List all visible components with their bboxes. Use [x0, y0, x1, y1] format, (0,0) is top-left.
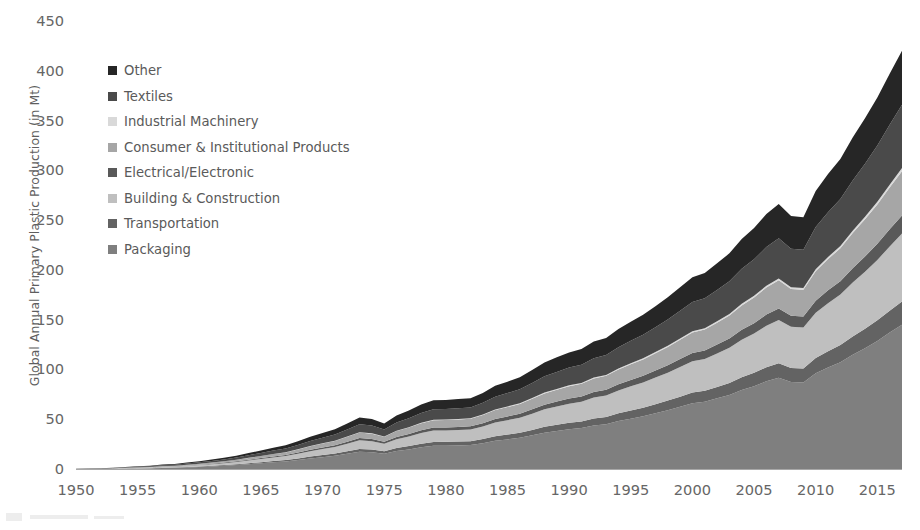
x-axis-tick-1995: 1995 [612, 483, 649, 498]
legend-item-electrical-electronic[interactable]: Electrical/Electronic [108, 160, 448, 186]
legend-swatch-icon [108, 245, 117, 254]
legend-swatch-icon [108, 194, 117, 203]
legend-item-transportation[interactable]: Transportation [108, 211, 448, 237]
legend-item-building-construction[interactable]: Building & Construction [108, 186, 448, 212]
legend-swatch-icon [108, 92, 117, 101]
legend-item-industrial-machinery[interactable]: Industrial Machinery [108, 109, 448, 135]
legend-item-label: Textiles [124, 90, 173, 103]
chart-legend: OtherTextilesIndustrial MachineryConsume… [108, 58, 448, 262]
legend-swatch-icon [108, 219, 117, 228]
x-axis-tick-1955: 1955 [119, 483, 156, 498]
legend-swatch-icon [108, 143, 117, 152]
legend-item-label: Industrial Machinery [124, 115, 258, 128]
y-axis-tick-0: 0 [20, 462, 64, 477]
y-axis-tick-labels: 450400350300250200150100500 [14, 0, 64, 530]
y-axis-tick-200: 200 [20, 263, 64, 278]
x-axis-tick-1975: 1975 [366, 483, 403, 498]
x-axis-tick-2005: 2005 [735, 483, 772, 498]
x-axis-tick-2010: 2010 [797, 483, 834, 498]
x-axis-tick-1965: 1965 [242, 483, 279, 498]
y-axis-tick-350: 350 [20, 114, 64, 129]
legend-swatch-icon [108, 66, 117, 75]
legend-item-label: Consumer & Institutional Products [124, 141, 350, 154]
y-axis-tick-250: 250 [20, 213, 64, 228]
x-axis-tick-1980: 1980 [427, 483, 464, 498]
legend-item-label: Transportation [124, 217, 219, 230]
x-axis-tick-labels: 1950195519601965197019751980198519901995… [0, 483, 920, 509]
legend-swatch-icon [108, 168, 117, 177]
y-axis-tick-300: 300 [20, 163, 64, 178]
x-axis-tick-1990: 1990 [551, 483, 588, 498]
scan-artifact [94, 516, 124, 519]
x-axis-tick-2015: 2015 [859, 483, 896, 498]
y-axis-tick-150: 150 [20, 313, 64, 328]
y-axis-tick-100: 100 [20, 362, 64, 377]
legend-item-packaging[interactable]: Packaging [108, 237, 448, 263]
legend-item-other[interactable]: Other [108, 58, 448, 84]
y-axis-tick-400: 400 [20, 64, 64, 79]
legend-item-label: Other [124, 64, 161, 77]
y-axis-tick-450: 450 [20, 14, 64, 29]
legend-swatch-icon [108, 117, 117, 126]
legend-item-label: Packaging [124, 243, 191, 256]
x-axis-tick-1985: 1985 [489, 483, 526, 498]
scan-artifact [30, 515, 88, 519]
x-axis-tick-1960: 1960 [181, 483, 218, 498]
scan-artifact [6, 513, 22, 521]
legend-item-textiles[interactable]: Textiles [108, 84, 448, 110]
plastic-production-chart: Global Annual Primary Plastic Production… [0, 0, 920, 530]
legend-item-label: Electrical/Electronic [124, 166, 254, 179]
x-axis-tick-1970: 1970 [304, 483, 341, 498]
y-axis-tick-50: 50 [20, 412, 64, 427]
legend-item-label: Building & Construction [124, 192, 280, 205]
legend-item-consumer-institutional-products[interactable]: Consumer & Institutional Products [108, 135, 448, 161]
x-axis-tick-2000: 2000 [674, 483, 711, 498]
x-axis-tick-1950: 1950 [57, 483, 94, 498]
